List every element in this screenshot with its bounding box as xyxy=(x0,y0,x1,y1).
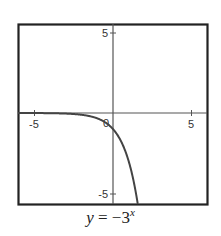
caption-lhs: y xyxy=(86,208,94,227)
x-tick-label-pos5: 5 xyxy=(188,118,194,130)
y-tick-label-pos5: 5 xyxy=(102,27,108,39)
plot-area: -5 5 0 5 -5 xyxy=(0,0,221,236)
caption-exponent: x xyxy=(130,206,135,218)
caption-equals: = xyxy=(98,208,108,227)
x-tick-label-neg5: -5 xyxy=(29,118,39,130)
caption-base: −3 xyxy=(112,208,130,227)
function-caption: y = −3x xyxy=(0,206,221,228)
y-tick-label-neg5: -5 xyxy=(98,188,108,200)
chart: -5 5 0 5 -5 y = −3x xyxy=(0,0,221,236)
